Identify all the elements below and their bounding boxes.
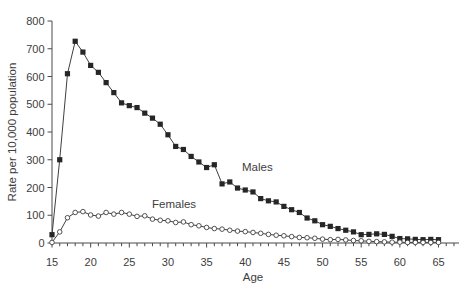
females-data-point [73, 210, 78, 215]
males-data-point [274, 199, 279, 204]
males-data-point [150, 116, 155, 121]
females-data-point [421, 240, 426, 245]
x-axis-title: Age [243, 271, 263, 283]
females-data-point [305, 235, 310, 240]
females-data-point [390, 240, 395, 245]
males-data-point [343, 228, 348, 233]
females-series-label: Females [152, 198, 196, 210]
females-data-point [328, 237, 333, 242]
females-data-point [135, 214, 140, 219]
females-data-point [382, 240, 387, 245]
females-data-point [158, 218, 163, 223]
females-data-point [313, 236, 318, 241]
males-data-point [243, 187, 248, 192]
males-line [52, 41, 439, 239]
x-tick-label: 20 [85, 256, 97, 268]
males-data-point [297, 210, 302, 215]
y-tick-label: 400 [26, 126, 44, 138]
y-tick-label: 100 [26, 209, 44, 221]
females-data-point [104, 210, 109, 215]
males-data-point [73, 39, 78, 44]
x-tick-label: 40 [239, 256, 251, 268]
females-data-point [127, 212, 132, 217]
males-data-point [227, 179, 232, 184]
females-line [52, 212, 439, 243]
males-data-point [111, 90, 116, 95]
males-data-point [142, 111, 147, 116]
females-data-point [413, 240, 418, 245]
females-data-point [212, 226, 217, 231]
females-data-point [359, 238, 364, 243]
females-data-point [289, 234, 294, 239]
males-data-point [119, 100, 124, 105]
data-series [49, 39, 441, 245]
males-data-point [49, 232, 54, 237]
females-data-point [81, 209, 86, 214]
males-data-point [335, 226, 340, 231]
females-data-point [282, 233, 287, 238]
males-data-point [173, 144, 178, 149]
x-tick-label: 55 [355, 256, 367, 268]
males-data-point [96, 70, 101, 75]
females-data-point [150, 217, 155, 222]
males-series-label: Males [242, 161, 273, 173]
females-data-point [274, 233, 279, 238]
females-data-point [336, 237, 341, 242]
axes [52, 21, 459, 243]
males-data-point [127, 103, 132, 108]
x-tick-label: 35 [200, 256, 212, 268]
females-series [50, 209, 441, 244]
y-tick-label: 800 [26, 15, 44, 27]
males-data-point [134, 105, 139, 110]
females-data-point [367, 239, 372, 244]
females-data-point [65, 215, 70, 220]
males-data-point [312, 218, 317, 223]
males-data-point [390, 234, 395, 239]
males-data-point [196, 159, 201, 164]
males-data-point [258, 196, 263, 201]
females-data-point [197, 223, 202, 228]
females-data-point [351, 238, 356, 243]
males-data-point [351, 229, 356, 234]
y-tick-label: 300 [26, 154, 44, 166]
females-data-point [166, 219, 171, 224]
males-data-point [328, 224, 333, 229]
x-tick-label: 60 [394, 256, 406, 268]
males-data-point [104, 80, 109, 85]
males-data-point [80, 49, 85, 54]
x-axis-ticks: 1520253035404550556065 [46, 243, 454, 268]
males-data-point [289, 207, 294, 212]
males-data-point [320, 222, 325, 227]
females-data-point [374, 239, 379, 244]
females-data-point [266, 232, 271, 237]
x-tick-label: 45 [278, 256, 290, 268]
females-data-point [343, 238, 348, 243]
females-data-point [258, 231, 263, 236]
x-tick-label: 50 [316, 256, 328, 268]
females-data-point [112, 212, 117, 217]
males-data-point [88, 63, 93, 68]
females-data-point [251, 230, 256, 235]
females-data-point [119, 210, 124, 215]
y-tick-label: 200 [26, 182, 44, 194]
males-data-point [235, 185, 240, 190]
females-data-point [398, 240, 403, 245]
females-data-point [88, 213, 93, 218]
males-data-point [189, 154, 194, 159]
females-data-point [50, 240, 55, 245]
x-tick-label: 15 [46, 256, 58, 268]
males-data-point [281, 204, 286, 209]
females-data-point [320, 237, 325, 242]
females-data-point [220, 227, 225, 232]
females-data-point [243, 229, 248, 234]
y-tick-label: 500 [26, 98, 44, 110]
females-data-point [227, 228, 232, 233]
females-data-point [297, 235, 302, 240]
males-data-point [181, 147, 186, 152]
males-data-point [65, 71, 70, 76]
males-data-point [212, 162, 217, 167]
males-data-point [204, 165, 209, 170]
males-data-point [57, 157, 62, 162]
females-data-point [436, 240, 441, 245]
females-data-point [142, 214, 147, 219]
